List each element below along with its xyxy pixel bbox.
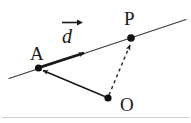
- point-p-dot: [127, 34, 135, 42]
- point-p-label: P: [124, 9, 135, 28]
- point-o-label: O: [120, 95, 134, 114]
- vector-d-label: d: [62, 26, 72, 46]
- point-a-dot: [35, 64, 42, 71]
- vector-op-dashed-arrow: [109, 45, 130, 95]
- vector-d-arrow: [39, 53, 84, 68]
- point-a-label: A: [30, 44, 44, 63]
- point-o-dot: [104, 94, 111, 101]
- geometry-diagram: [0, 0, 191, 123]
- figure-canvas: A P O d: [0, 0, 191, 123]
- vector-oa-arrow: [43, 71, 106, 98]
